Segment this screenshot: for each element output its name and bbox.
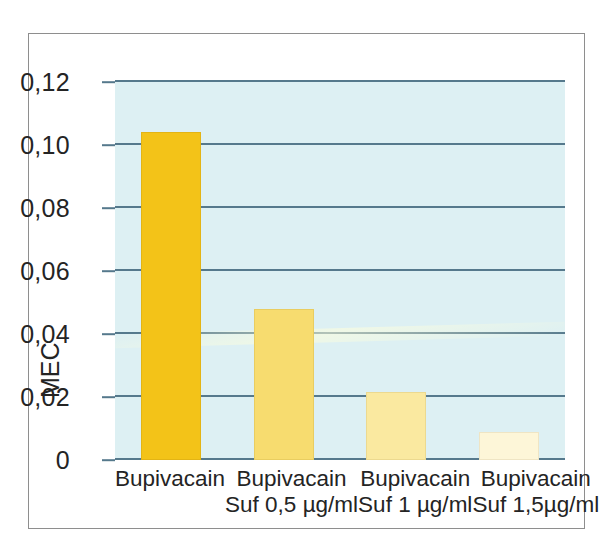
y-tick-mark-6 [102, 81, 115, 83]
x-axis-labels: BupivacainBupivacainSuf 0,5 µg/mlBupivac… [115, 466, 565, 528]
x-category-label-3: BupivacainSuf 1 µg/ml [358, 466, 472, 528]
y-tick-mark-4 [102, 207, 115, 209]
y-tick-label-6: 0,12 [20, 68, 70, 97]
bar-chart-figure: 00,020,040,060,080,100,12 MEC Bupivacain… [0, 0, 610, 555]
y-tick-label-0: 0 [56, 446, 70, 475]
x-category-line2: Suf 1 µg/ml [358, 492, 472, 518]
x-category-line1: Bupivacain [115, 466, 225, 491]
y-tick-mark-3 [102, 270, 115, 272]
x-category-line2: Suf 1,5µg/ml [472, 492, 599, 518]
y-tick-mark-1 [102, 396, 115, 398]
y-tick-mark-2 [102, 333, 115, 335]
y-tick-label-3: 0,06 [20, 257, 70, 286]
x-category-line1: Bupivacain [360, 466, 470, 491]
x-category-label-2: BupivacainSuf 0,5 µg/ml [225, 466, 358, 528]
x-category-line2: Suf 0,5 µg/ml [225, 492, 358, 518]
y-tick-label-5: 0,10 [20, 131, 70, 160]
x-category-line1: Bupivacain [237, 466, 347, 491]
x-category-label-4: BupivacainSuf 1,5µg/ml [472, 466, 599, 528]
y-tick-mark-5 [102, 144, 115, 146]
x-category-line1: Bupivacain [481, 466, 591, 491]
y-axis: 00,020,040,060,080,100,12 [28, 33, 585, 529]
y-tick-mark-0 [102, 459, 115, 461]
x-category-label-1: Bupivacain [115, 466, 225, 528]
y-tick-label-4: 0,08 [20, 194, 70, 223]
y-axis-title: MEC [36, 342, 65, 398]
